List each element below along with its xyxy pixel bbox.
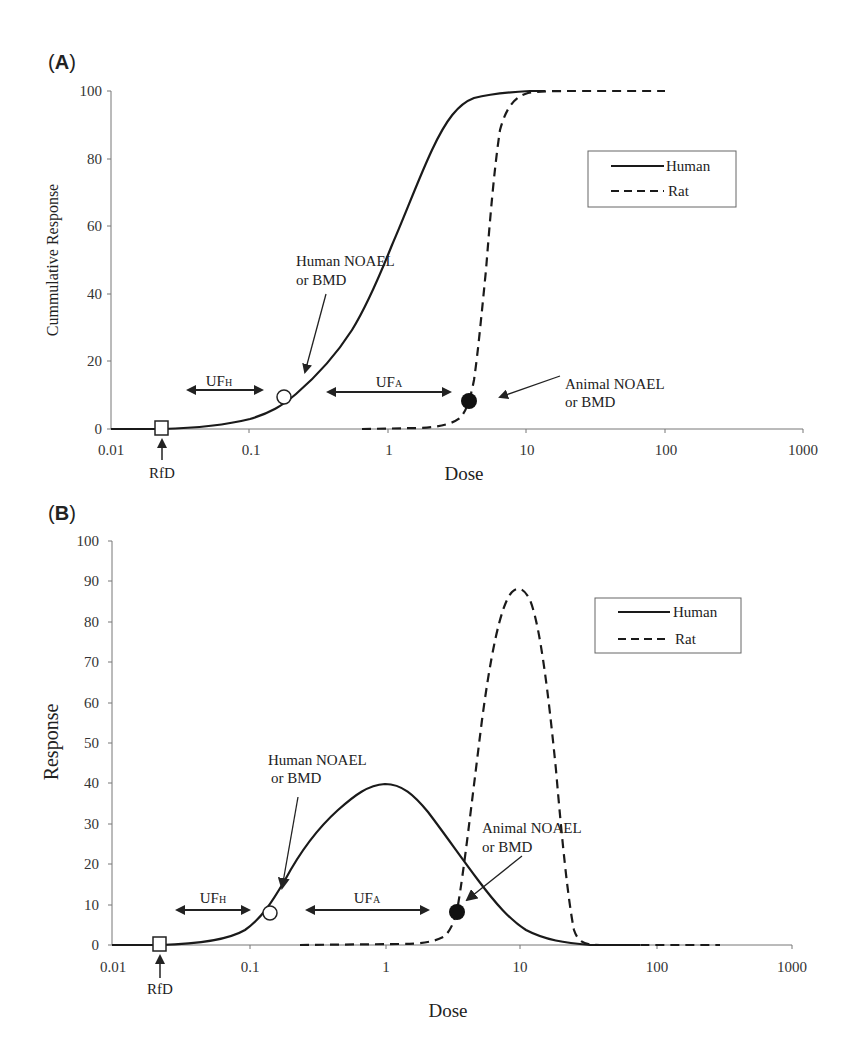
x-tick-label: 1000 bbox=[777, 959, 807, 975]
animal-noael-label-2: or BMD bbox=[565, 394, 616, 410]
animal-noael-marker bbox=[449, 904, 465, 920]
legend-human-label: Human bbox=[666, 158, 711, 174]
x-tick-label: 1 bbox=[385, 442, 393, 458]
y-tick-label: 0 bbox=[92, 937, 100, 953]
uf-sub: H bbox=[219, 894, 226, 905]
x-tick-label: 0.1 bbox=[241, 959, 260, 975]
x-tick-label: 100 bbox=[646, 959, 669, 975]
y-ticks bbox=[107, 91, 111, 429]
y-tick-label: 80 bbox=[87, 151, 102, 167]
uf-main: UF bbox=[200, 890, 219, 906]
uf-main: UF bbox=[354, 890, 373, 906]
human-noael-marker bbox=[263, 906, 277, 920]
y-tick-label: 0 bbox=[95, 421, 103, 437]
y-tick-label: 30 bbox=[84, 816, 99, 832]
y-tick-label: 80 bbox=[84, 614, 99, 630]
human-noael-arrow bbox=[305, 294, 326, 372]
rfd-marker-square bbox=[155, 421, 168, 435]
y-tick-label: 40 bbox=[87, 286, 102, 302]
human-curve bbox=[112, 784, 640, 945]
figure-canvas: 0 20 40 60 80 100 0.01 0.1 1 10 100 1000… bbox=[0, 0, 851, 1040]
human-noael-arrow bbox=[282, 797, 298, 888]
legend-rat-label: Rat bbox=[668, 183, 690, 199]
y-tick-label: 60 bbox=[87, 218, 102, 234]
uf-sub: A bbox=[373, 894, 381, 905]
y-tick-label: 40 bbox=[84, 775, 99, 791]
y-tick-label: 60 bbox=[84, 695, 99, 711]
human-noael-label-2: or BMD bbox=[271, 770, 322, 786]
uf-sub: H bbox=[225, 377, 232, 388]
legend: Human Rat bbox=[588, 151, 736, 207]
x-tick-label: 10 bbox=[513, 959, 528, 975]
uf-sub: A bbox=[395, 378, 403, 389]
x-tick-label: 0.01 bbox=[100, 959, 126, 975]
y-tick-label: 100 bbox=[80, 83, 103, 99]
chart-panel-b: 0 10 20 30 40 50 60 70 80 90 100 0.01 0.… bbox=[40, 533, 807, 1021]
rfd-marker-square bbox=[153, 937, 166, 951]
human-noael-label-2: or BMD bbox=[296, 272, 347, 288]
y-tick-label: 90 bbox=[84, 573, 99, 589]
uf-main: UF bbox=[376, 374, 395, 390]
x-tick-label: 10 bbox=[520, 442, 535, 458]
y-axis-title: Response bbox=[40, 704, 63, 781]
legend-rat-label: Rat bbox=[675, 631, 697, 647]
x-tick-label: 100 bbox=[655, 442, 678, 458]
uf-h-label: UFH bbox=[206, 373, 232, 389]
human-noael-marker bbox=[277, 390, 291, 404]
y-tick-label: 20 bbox=[87, 353, 102, 369]
human-noael-label: Human NOAEL bbox=[296, 253, 395, 269]
uf-a-label: UFA bbox=[376, 374, 403, 390]
chart-panel-a: 0 20 40 60 80 100 0.01 0.1 1 10 100 1000… bbox=[44, 83, 818, 484]
y-axis-title: Cummulative Response bbox=[44, 184, 62, 336]
x-tick-label: 1000 bbox=[788, 442, 818, 458]
legend-human-label: Human bbox=[673, 604, 718, 620]
human-noael-label: Human NOAEL bbox=[268, 752, 367, 768]
x-ticks bbox=[249, 429, 803, 433]
x-tick-label: 0.01 bbox=[98, 442, 124, 458]
y-ticks bbox=[108, 541, 112, 945]
uf-h-label: UFH bbox=[200, 890, 226, 906]
y-tick-label: 100 bbox=[77, 533, 100, 549]
y-tick-label: 20 bbox=[84, 856, 99, 872]
animal-noael-label-2: or BMD bbox=[482, 839, 533, 855]
animal-noael-label: Animal NOAEL bbox=[482, 820, 582, 836]
y-tick-label: 70 bbox=[84, 654, 99, 670]
animal-noael-arrow bbox=[500, 376, 560, 397]
x-tick-label: 0.1 bbox=[242, 442, 261, 458]
uf-main: UF bbox=[206, 373, 225, 389]
animal-noael-label: Animal NOAEL bbox=[565, 376, 665, 392]
x-axis-title: Dose bbox=[444, 463, 483, 484]
y-tick-label: 50 bbox=[84, 735, 99, 751]
rfd-label: RfD bbox=[147, 981, 173, 997]
y-tick-label: 10 bbox=[84, 897, 99, 913]
animal-noael-marker bbox=[461, 393, 477, 409]
legend: Human Rat bbox=[595, 598, 741, 653]
uf-a-label: UFA bbox=[354, 890, 381, 906]
x-tick-label: 1 bbox=[382, 959, 390, 975]
x-axis-title: Dose bbox=[428, 1000, 467, 1021]
rfd-label: RfD bbox=[149, 465, 175, 481]
